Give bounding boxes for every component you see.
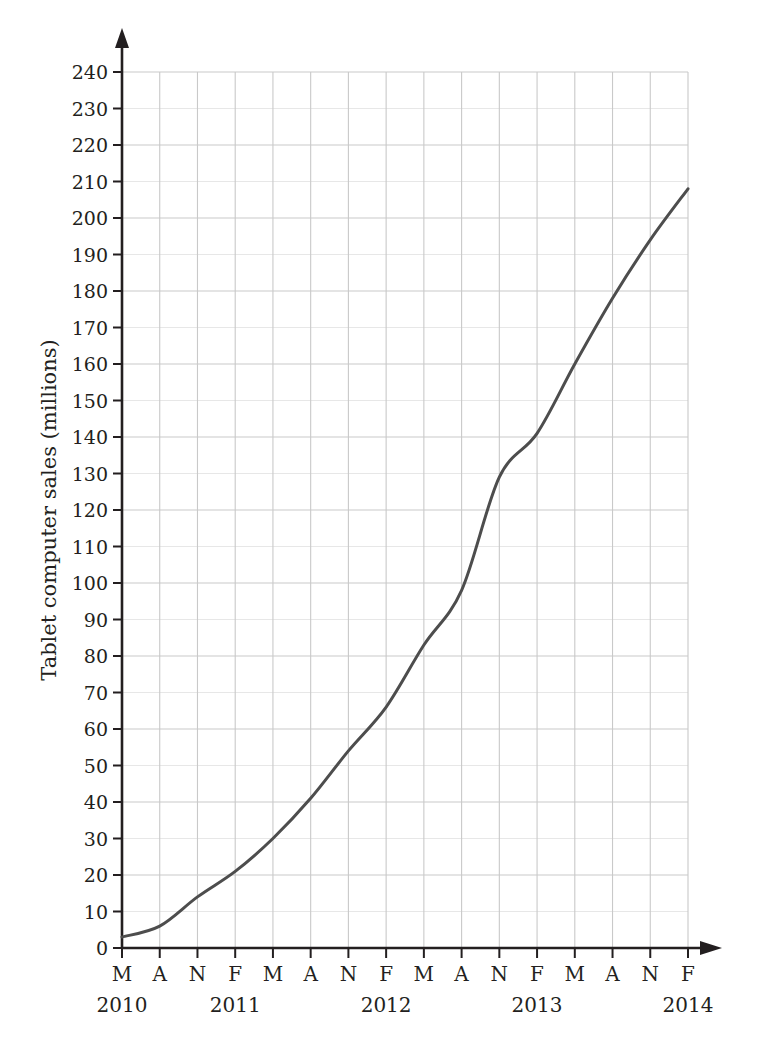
x-tick-label-year: 2012: [361, 993, 412, 1017]
axes: [115, 28, 722, 955]
y-tick-label: 140: [72, 426, 108, 448]
x-tick-label-month: A: [604, 962, 620, 986]
x-tick-label-month: N: [340, 962, 358, 986]
x-tick-label-month: M: [565, 962, 585, 986]
x-tick-label-month: F: [681, 962, 695, 986]
series-line-tablet-sales: [122, 189, 688, 937]
y-tick-label: 190: [72, 244, 108, 266]
x-tick-label-month: M: [263, 962, 283, 986]
y-tick-label: 20: [84, 864, 108, 886]
x-tick-label-month: F: [228, 962, 242, 986]
x-axis-arrow-icon: [700, 941, 722, 955]
y-axis-title: Tablet computer sales (millions): [37, 339, 61, 680]
tablet-sales-line-chart: 0102030405060708090100110120130140150160…: [0, 0, 758, 1054]
x-tick-label-year: 2011: [210, 993, 261, 1017]
x-axis-year-labels: 20102011201220132014: [97, 993, 714, 1017]
x-tick-label-month: A: [302, 962, 318, 986]
y-tick-label: 30: [84, 828, 108, 850]
y-tick-label: 110: [72, 536, 108, 558]
y-tick-label: 180: [72, 280, 108, 302]
x-tick-label-month: A: [152, 962, 168, 986]
y-tick-label: 150: [72, 390, 108, 412]
x-tick-label-month: N: [491, 962, 509, 986]
y-tick-label: 60: [84, 718, 108, 740]
x-tick-label-year: 2014: [663, 993, 714, 1017]
y-tick-label: 10: [84, 901, 108, 923]
y-tick-label: 120: [72, 499, 108, 521]
x-axis-tick-labels: MANFMANFMANFMANF: [112, 962, 695, 986]
x-tick-label-month: F: [530, 962, 544, 986]
x-tick-label-month: A: [453, 962, 469, 986]
y-tick-label: 80: [84, 645, 108, 667]
tick-marks: [113, 72, 688, 958]
y-tick-label: 100: [72, 572, 108, 594]
y-tick-label: 200: [72, 207, 108, 229]
y-axis-arrow-icon: [115, 28, 129, 48]
y-tick-label: 230: [72, 98, 108, 120]
y-tick-label: 160: [72, 353, 108, 375]
y-tick-label: 170: [72, 317, 108, 339]
x-tick-label-month: N: [189, 962, 207, 986]
x-tick-label-month: N: [642, 962, 660, 986]
x-tick-label-month: M: [112, 962, 132, 986]
y-axis-tick-labels: 0102030405060708090100110120130140150160…: [72, 61, 108, 959]
y-tick-label: 70: [84, 682, 108, 704]
x-tick-label-year: 2010: [97, 993, 148, 1017]
y-tick-label: 50: [84, 755, 108, 777]
data-series-line: [122, 189, 688, 937]
x-tick-label-month: M: [414, 962, 434, 986]
y-tick-label: 240: [72, 61, 108, 83]
x-tick-label-month: F: [379, 962, 393, 986]
x-tick-label-year: 2013: [512, 993, 563, 1017]
y-tick-label: 130: [72, 463, 108, 485]
y-tick-label: 90: [84, 609, 108, 631]
grid-lines: [122, 72, 688, 948]
chart-canvas: 0102030405060708090100110120130140150160…: [0, 0, 758, 1054]
y-tick-label: 0: [96, 937, 108, 959]
y-tick-label: 40: [84, 791, 108, 813]
y-tick-label: 210: [72, 171, 108, 193]
y-tick-label: 220: [72, 134, 108, 156]
y-axis-title-text: Tablet computer sales (millions): [37, 339, 61, 680]
